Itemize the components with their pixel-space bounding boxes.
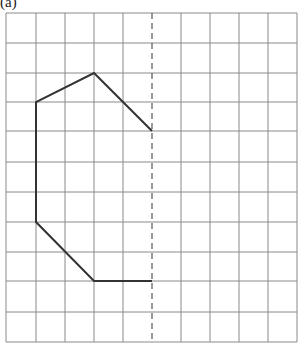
grid-diagram	[0, 0, 300, 347]
